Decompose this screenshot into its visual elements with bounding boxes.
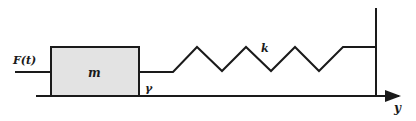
mass-spring-diagram: F(t) m γ k y xyxy=(0,0,416,121)
damping-label: γ xyxy=(145,82,153,95)
spring-constant-label: k xyxy=(261,42,269,55)
spring-k xyxy=(139,47,376,72)
axis-y-label: y xyxy=(393,101,402,115)
mass-label: m xyxy=(88,66,101,80)
force-label: F(t) xyxy=(12,54,36,67)
